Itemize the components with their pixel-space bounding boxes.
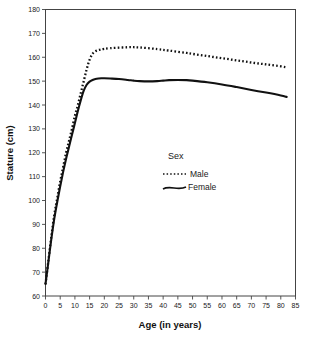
x-tick-label: 15: [86, 302, 94, 309]
x-tick-label: 40: [159, 302, 167, 309]
x-tick-label: 50: [189, 302, 197, 309]
y-tick-label: 160: [28, 54, 40, 61]
y-tick-label: 90: [32, 221, 40, 228]
chart-background: [0, 0, 315, 342]
y-axis-title: Stature (cm): [4, 125, 15, 180]
y-tick-label: 110: [29, 173, 40, 180]
x-tick-label: 60: [218, 302, 226, 309]
legend-title: Sex: [168, 151, 184, 161]
y-tick-label: 150: [28, 78, 40, 85]
x-tick-label: 65: [233, 302, 241, 309]
y-tick-label: 180: [28, 6, 40, 13]
x-tick-label: 75: [262, 302, 270, 309]
x-tick-label: 25: [115, 302, 123, 309]
x-tick-label: 45: [174, 302, 182, 309]
legend-label-female: Female: [188, 182, 217, 192]
stature-by-age-chart: 60708090100110120130140150160170180 0510…: [0, 0, 315, 342]
y-tick-label: 140: [28, 102, 40, 109]
y-tick-label: 60: [32, 293, 40, 300]
x-tick-label: 20: [100, 302, 108, 309]
x-tick-label: 80: [277, 302, 285, 309]
y-tick-label: 80: [32, 245, 40, 252]
x-axis-title: Age (in years): [139, 319, 202, 330]
chart-svg: 60708090100110120130140150160170180 0510…: [0, 0, 315, 342]
x-tick-label: 30: [130, 302, 138, 309]
x-tick-label: 70: [247, 302, 255, 309]
x-tick-label: 55: [203, 302, 211, 309]
y-tick-label: 130: [28, 125, 40, 132]
x-tick-label: 5: [58, 302, 62, 309]
x-tick-label: 10: [71, 302, 79, 309]
x-tick-label: 35: [145, 302, 153, 309]
y-tick-label: 170: [28, 30, 40, 37]
y-tick-label: 120: [28, 149, 40, 156]
y-tick-label: 70: [32, 269, 40, 276]
legend-label-male: Male: [190, 169, 209, 179]
x-tick-label: 85: [292, 302, 300, 309]
x-tick-label: 0: [44, 302, 48, 309]
y-tick-label: 100: [28, 197, 40, 204]
